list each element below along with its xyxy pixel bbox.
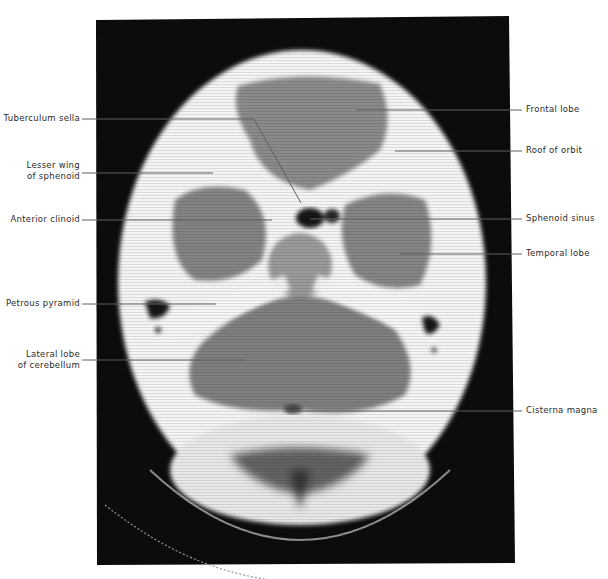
label-cisterna-magna: Cisterna magna <box>526 405 598 416</box>
label-text-line-2: of cerebellum <box>18 360 80 371</box>
label-lateral-lobe-of-cerebellum: Lateral lobe of cerebellum <box>18 349 80 371</box>
label-text: Cisterna magna <box>526 405 598 415</box>
ct-scan-image <box>0 0 608 579</box>
label-frontal-lobe: Frontal lobe <box>526 104 580 115</box>
label-text: Temporal lobe <box>526 248 590 258</box>
label-text-line-1: Lesser wing <box>27 160 81 171</box>
label-text: Tuberculum sella <box>4 113 80 123</box>
label-tuberculum-sella: Tuberculum sella <box>4 113 80 124</box>
label-anterior-clinoid: Anterior clinoid <box>10 214 80 225</box>
label-petrous-pyramid: Petrous pyramid <box>6 298 80 309</box>
label-sphenoid-sinus: Sphenoid sinus <box>526 213 595 224</box>
label-text-line-2: of sphenoid <box>27 171 81 182</box>
label-text: Frontal lobe <box>526 104 580 114</box>
label-text: Petrous pyramid <box>6 298 80 308</box>
label-text: Roof of orbit <box>526 145 582 155</box>
label-temporal-lobe: Temporal lobe <box>526 248 590 259</box>
ct-figure: Tuberculum sella Lesser wing of sphenoid… <box>0 0 608 579</box>
label-text-line-1: Lateral lobe <box>18 349 80 360</box>
label-lesser-wing-of-sphenoid: Lesser wing of sphenoid <box>27 160 81 182</box>
label-text: Sphenoid sinus <box>526 213 595 223</box>
label-roof-of-orbit: Roof of orbit <box>526 145 582 156</box>
label-text: Anterior clinoid <box>10 214 80 224</box>
